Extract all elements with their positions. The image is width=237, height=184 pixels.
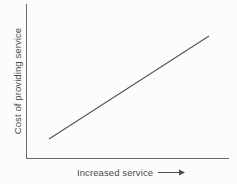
y-axis-label: Cost of providing service xyxy=(11,4,25,158)
right-arrow-icon xyxy=(158,168,186,177)
x-axis-label: Increased service xyxy=(77,167,153,178)
data-line-cost-of-providing-service xyxy=(49,36,209,139)
chart-figure: Cost of providing service Increased serv… xyxy=(0,0,237,184)
x-axis-label-group: Increased service xyxy=(26,165,229,179)
plot-area xyxy=(0,0,237,184)
